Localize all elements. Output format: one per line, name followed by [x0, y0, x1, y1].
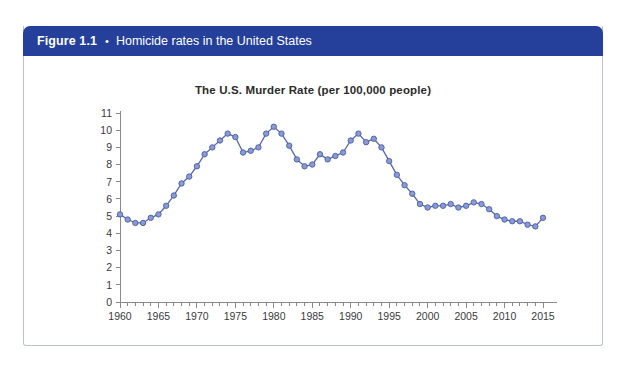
svg-text:6: 6: [106, 193, 112, 205]
data-point: [187, 174, 192, 179]
svg-text:2000: 2000: [416, 310, 440, 322]
data-point: [479, 201, 484, 206]
svg-text:7: 7: [106, 176, 112, 188]
data-point: [217, 138, 222, 143]
data-point: [371, 136, 376, 141]
svg-text:11: 11: [101, 107, 112, 119]
data-point: [233, 134, 238, 139]
svg-text:3: 3: [106, 244, 112, 256]
svg-text:10: 10: [100, 124, 112, 136]
data-point: [317, 152, 322, 157]
svg-text:0: 0: [106, 296, 112, 308]
svg-text:1965: 1965: [147, 310, 171, 322]
data-point: [256, 145, 261, 150]
svg-text:9: 9: [106, 141, 112, 153]
data-point: [210, 145, 215, 150]
data-point: [333, 153, 338, 158]
data-point: [248, 148, 253, 153]
data-point: [271, 124, 276, 129]
svg-text:1: 1: [106, 279, 112, 291]
data-point: [194, 164, 199, 169]
svg-text:1990: 1990: [339, 310, 363, 322]
data-point: [410, 191, 415, 196]
data-point: [502, 217, 507, 222]
svg-text:2015: 2015: [531, 310, 555, 322]
svg-text:1985: 1985: [301, 310, 325, 322]
data-point: [325, 157, 330, 162]
data-point: [171, 193, 176, 198]
data-point: [510, 219, 515, 224]
data-point: [533, 224, 538, 229]
chart-area: The U.S. Murder Rate (per 100,000 people…: [23, 56, 603, 346]
data-point: [294, 157, 299, 162]
data-point: [202, 152, 207, 157]
data-point: [133, 220, 138, 225]
svg-text:2010: 2010: [493, 310, 517, 322]
data-point: [340, 150, 345, 155]
data-point: [279, 131, 284, 136]
figure-footnote: [24, 354, 444, 366]
data-point: [394, 172, 399, 177]
figure-screenshot: Figure 1.1 • Homicide rates in the Unite…: [0, 0, 626, 368]
data-point: [456, 205, 461, 210]
data-point: [471, 200, 476, 205]
data-point: [448, 201, 453, 206]
data-point: [494, 213, 499, 218]
data-point: [440, 203, 445, 208]
data-point: [540, 215, 545, 220]
data-point: [463, 203, 468, 208]
data-point: [433, 203, 438, 208]
data-point: [287, 143, 292, 148]
data-point: [379, 145, 384, 150]
data-point: [263, 131, 268, 136]
svg-text:1995: 1995: [378, 310, 402, 322]
svg-text:1980: 1980: [262, 310, 286, 322]
figure-number: Figure 1.1: [37, 34, 97, 48]
figure-bullet-separator: •: [105, 36, 109, 47]
data-point: [117, 212, 122, 217]
figure-caption: Homicide rates in the United States: [116, 34, 312, 48]
line-chart-plot: 0123456789101119601965197019751980198519…: [23, 56, 603, 346]
data-point: [486, 207, 491, 212]
svg-text:4: 4: [106, 227, 112, 239]
data-point: [525, 222, 530, 227]
svg-text:1970: 1970: [185, 310, 209, 322]
svg-text:2: 2: [106, 261, 112, 273]
svg-text:1975: 1975: [224, 310, 248, 322]
data-point: [148, 215, 153, 220]
data-point: [386, 158, 391, 163]
data-point: [425, 205, 430, 210]
figure-header-bar: Figure 1.1 • Homicide rates in the Unite…: [23, 26, 603, 56]
data-point: [225, 131, 230, 136]
data-point: [140, 220, 145, 225]
data-point: [156, 212, 161, 217]
data-point: [517, 219, 522, 224]
data-point: [356, 131, 361, 136]
data-point: [240, 150, 245, 155]
data-point: [417, 201, 422, 206]
data-point: [125, 217, 130, 222]
data-point: [363, 140, 368, 145]
data-point: [310, 162, 315, 167]
svg-text:8: 8: [106, 158, 112, 170]
data-point: [302, 164, 307, 169]
data-point: [402, 182, 407, 187]
data-point: [163, 203, 168, 208]
svg-text:1960: 1960: [108, 310, 132, 322]
data-point: [179, 181, 184, 186]
data-point: [348, 138, 353, 143]
svg-text:5: 5: [106, 210, 112, 222]
svg-text:2005: 2005: [454, 310, 478, 322]
